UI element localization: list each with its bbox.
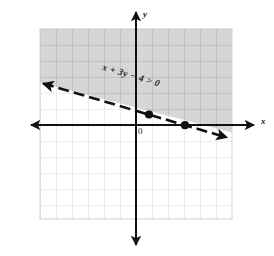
y-axis-label: y: [143, 10, 147, 19]
graph-figure: y x 0 x + 3y − 4 > 0: [0, 0, 274, 256]
origin-label: 0: [138, 127, 143, 136]
x-axis-label: x: [261, 117, 266, 126]
coordinate-plane-svg: [0, 0, 274, 256]
plot-point: [145, 110, 153, 118]
plot-point: [181, 121, 189, 129]
